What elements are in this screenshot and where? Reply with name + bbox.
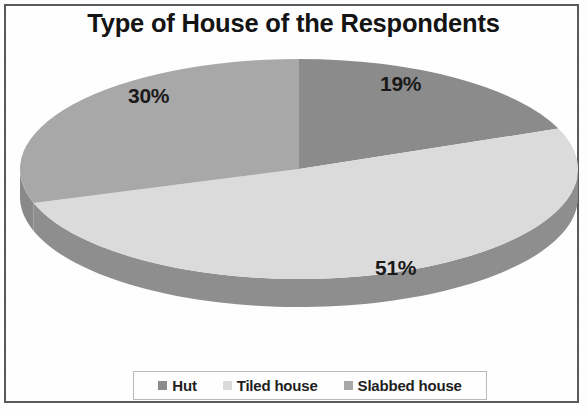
pie-data-label-tiled-house: 51% [375,256,416,280]
legend-label-slabbed-house: Slabbed house [358,377,462,394]
legend-item-tiled-house[interactable]: Tiled house [223,377,318,394]
pie-data-label-hut: 19% [380,72,421,96]
legend-label-hut: Hut [172,377,196,394]
legend-label-tiled-house: Tiled house [237,377,318,394]
legend-item-slabbed-house[interactable]: Slabbed house [344,377,462,394]
legend-swatch-slabbed-house-icon [344,381,353,390]
legend-swatch-hut-icon [158,381,167,390]
chart-legend: Hut Tiled house Slabbed house [133,371,487,400]
pie-data-label-slabbed-house: 30% [128,84,169,108]
pie-top-face [20,59,578,279]
pie-plot-area: 19% 30% 51% [0,0,587,411]
legend-item-hut[interactable]: Hut [158,377,196,394]
chart-figure: Type of House of the Respondents 19% 30%… [0,0,587,411]
legend-swatch-tiled-house-icon [223,381,232,390]
pie-chart-graphic [0,0,587,411]
